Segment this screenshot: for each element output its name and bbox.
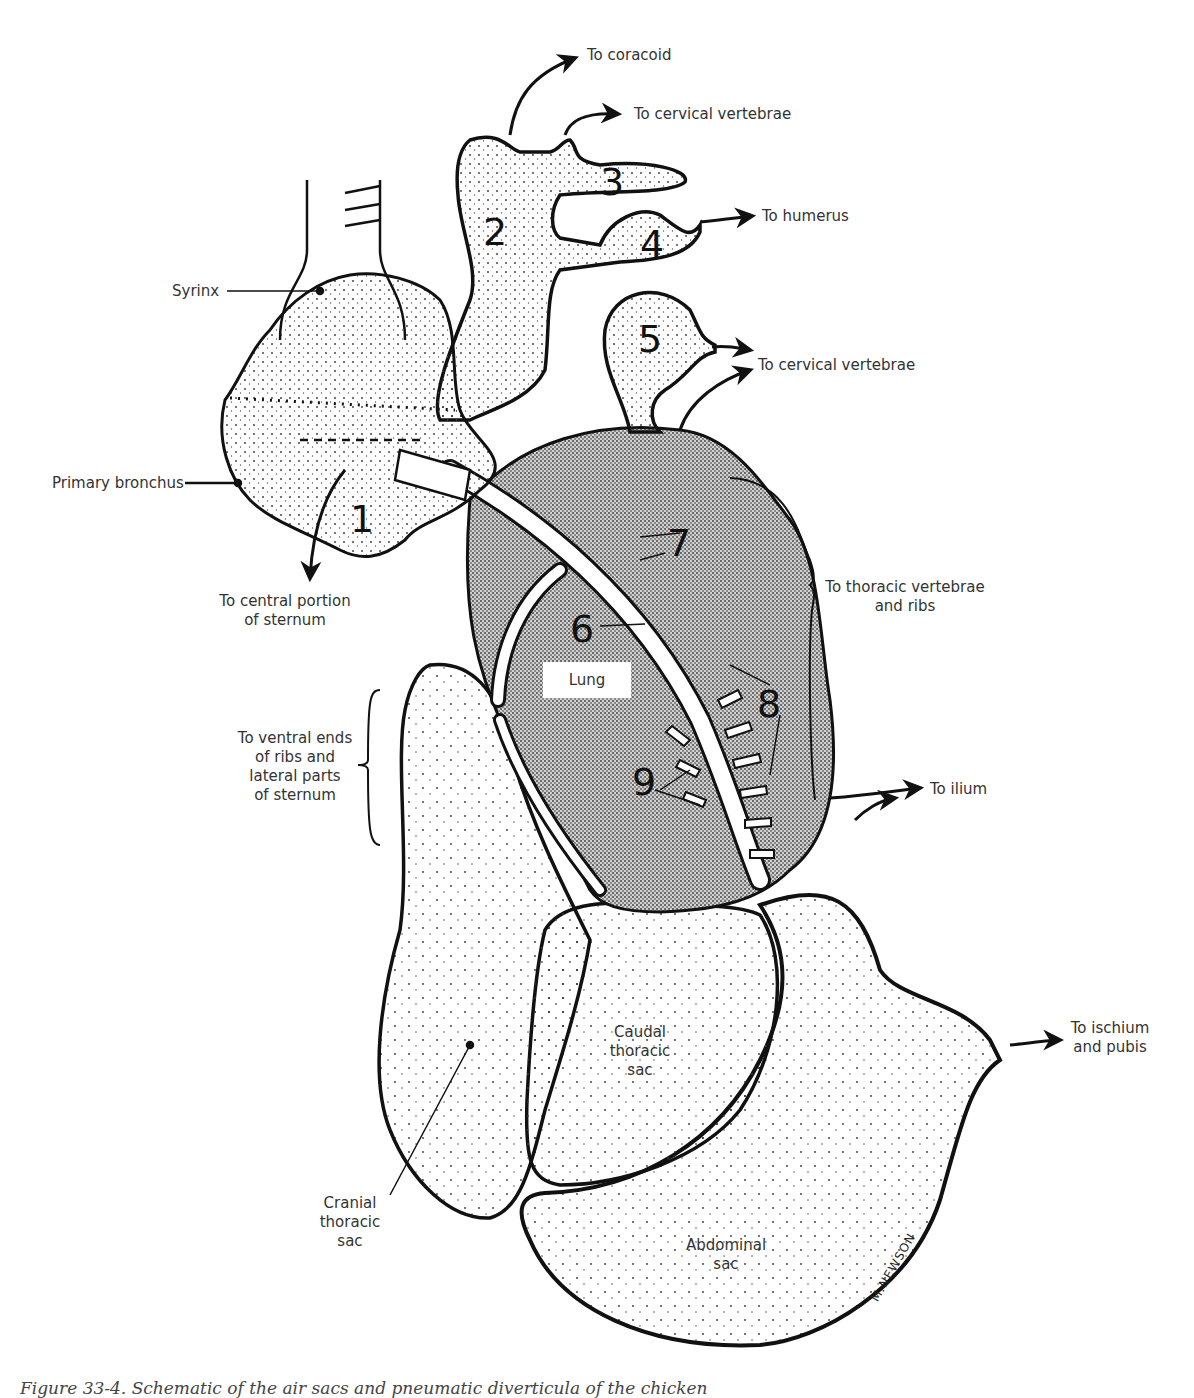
label-line: thoracic bbox=[590, 1042, 690, 1061]
number-1: 1 bbox=[350, 500, 374, 538]
label-to-coracoid: To coracoid bbox=[587, 46, 671, 65]
label-to-ilium: To ilium bbox=[930, 780, 987, 799]
label-line: Abdominal bbox=[666, 1236, 786, 1255]
label-line: sac bbox=[300, 1232, 400, 1251]
label-abdominal-sac: Abdominal sac bbox=[666, 1236, 786, 1274]
label-line: of ribs and bbox=[225, 748, 365, 767]
number-3: 3 bbox=[600, 163, 624, 201]
number-7: 7 bbox=[667, 524, 691, 562]
label-cranial-thoracic-sac: Cranial thoracic sac bbox=[300, 1194, 400, 1251]
label-lung: Lung bbox=[543, 662, 631, 698]
label-line: To central portion bbox=[205, 592, 365, 611]
label-syrinx: Syrinx bbox=[172, 282, 219, 301]
label-line: of sternum bbox=[205, 611, 365, 630]
number-2: 2 bbox=[483, 213, 507, 251]
label-line: To thoracic vertebrae bbox=[815, 578, 995, 597]
label-to-cervical-vertebrae-mid: To cervical vertebrae bbox=[758, 356, 915, 375]
number-8: 8 bbox=[757, 685, 781, 723]
number-5: 5 bbox=[638, 320, 662, 358]
label-line: and pubis bbox=[1060, 1038, 1160, 1057]
label-to-cervical-vertebrae-top: To cervical vertebrae bbox=[634, 105, 791, 124]
label-line: lateral parts bbox=[225, 767, 365, 786]
label-to-central-sternum: To central portion of sternum bbox=[205, 592, 365, 630]
sac-5 bbox=[604, 293, 715, 432]
label-line: Caudal bbox=[590, 1023, 690, 1042]
label-primary-bronchus: Primary bronchus bbox=[52, 474, 184, 493]
label-line: sac bbox=[666, 1255, 786, 1274]
label-caudal-thoracic-sac: Caudal thoracic sac bbox=[590, 1023, 690, 1080]
label-line: sac bbox=[590, 1061, 690, 1080]
label-line: Cranial bbox=[300, 1194, 400, 1213]
label-line: thoracic bbox=[300, 1213, 400, 1232]
number-9: 9 bbox=[632, 763, 656, 801]
number-6: 6 bbox=[570, 610, 594, 648]
label-to-thoracic-vertebrae: To thoracic vertebrae and ribs bbox=[815, 578, 995, 616]
label-to-humerus: To humerus bbox=[762, 207, 849, 226]
label-to-ventral-ends: To ventral ends of ribs and lateral part… bbox=[225, 729, 365, 805]
label-line: of sternum bbox=[225, 786, 365, 805]
figure-caption: Figure 33-4. Schematic of the air sacs a… bbox=[20, 1378, 707, 1398]
label-to-ischium: To ischium and pubis bbox=[1060, 1019, 1160, 1057]
label-line: and ribs bbox=[815, 597, 995, 616]
label-line: To ischium bbox=[1060, 1019, 1160, 1038]
label-line: To ventral ends bbox=[225, 729, 365, 748]
number-4: 4 bbox=[640, 225, 664, 263]
